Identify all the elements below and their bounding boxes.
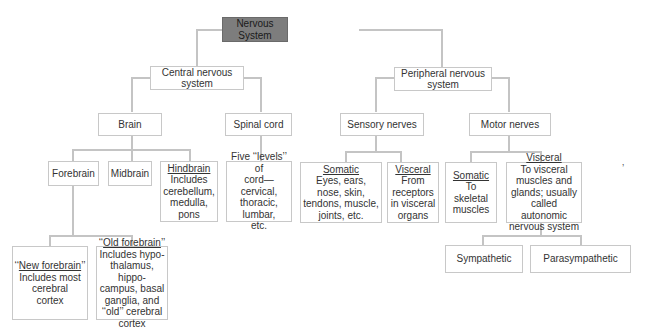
node-text: To visceral <box>520 164 567 176</box>
node-title: ‘‘Old forebrain’’ <box>99 237 165 249</box>
node-text: tendons, muscle, <box>303 198 379 210</box>
node-text: thoracic, <box>240 197 278 209</box>
node-text: Includes most <box>19 272 81 284</box>
node-nervous-system: Nervous System <box>222 17 288 42</box>
node-text: To <box>466 181 477 193</box>
node-label: Motor nerves <box>481 119 539 131</box>
node-text: organs <box>398 210 429 222</box>
node-text: Eyes, ears, <box>316 175 366 187</box>
node-title: ‘‘New forebrain’’ <box>15 260 86 272</box>
node-sensory-visceral: Visceral From receptors in visceral orga… <box>387 162 439 223</box>
node-label: Spinal cord <box>233 119 283 131</box>
node-label: system <box>427 79 459 91</box>
node-spinal-cord: Spinal cord <box>225 113 292 136</box>
node-text: cord—cervical, <box>227 174 291 197</box>
node-forebrain: Forebrain <box>48 161 99 186</box>
node-midbrain: Midbrain <box>108 161 152 186</box>
node-text: called autonomic <box>507 198 581 221</box>
node-label: Midbrain <box>111 168 149 180</box>
node-label: Forebrain <box>52 168 95 180</box>
node-text: thalamus, hippo- <box>97 260 167 283</box>
node-old-forebrain: ‘‘Old forebrain’’ Includes hypo- thalamu… <box>96 246 168 320</box>
node-sympathetic: Sympathetic <box>445 245 523 273</box>
node-label: Nervous System <box>223 18 287 41</box>
node-text: Includes hypo- <box>99 249 164 261</box>
node-text: medulla, <box>170 197 208 209</box>
node-label: system <box>181 78 213 90</box>
node-text: in visceral <box>391 198 435 210</box>
node-text: cortex <box>118 318 145 329</box>
node-new-forebrain: ‘‘New forebrain’’ Includes most cerebral… <box>12 246 88 320</box>
node-motor-nerves: Motor nerves <box>469 113 551 136</box>
node-title: Visceral <box>526 152 561 164</box>
node-label: Peripheral nervous <box>401 68 485 80</box>
node-label: Parasympathetic <box>543 253 617 265</box>
node-text: etc. <box>251 220 267 232</box>
node-title: Visceral <box>395 164 430 176</box>
node-text: joints, etc. <box>318 210 363 222</box>
node-text: lumbar, <box>243 209 276 221</box>
node-text: nose, skin, <box>317 187 365 199</box>
node-hindbrain: Hindbrain Includes cerebellum, medulla, … <box>160 161 218 222</box>
node-text: ganglia, and <box>105 295 160 307</box>
node-text: cortex <box>36 295 63 307</box>
node-title: Hindbrain <box>168 163 211 175</box>
node-text: campus, basal <box>100 283 164 295</box>
node-text: cerebral <box>32 283 68 295</box>
node-motor-somatic: Somatic To skeletal muscles <box>445 162 497 223</box>
node-label: Sympathetic <box>456 253 511 265</box>
node-text: Five ‘‘levels’’ of <box>227 151 291 174</box>
node-text: cerebellum, <box>163 186 215 198</box>
node-motor-visceral: Visceral To visceral muscles and glands;… <box>506 162 582 223</box>
node-parasympathetic: Parasympathetic <box>530 245 631 273</box>
node-central-nervous-system: Central nervous system <box>150 66 244 90</box>
node-text: nervous system <box>509 221 579 233</box>
node-sensory-somatic: Somatic Eyes, ears, nose, skin, tendons,… <box>300 162 382 223</box>
node-text: pons <box>178 209 200 221</box>
node-text: receptors <box>392 187 434 199</box>
node-brain: Brain <box>98 113 162 136</box>
node-text: muscles and <box>516 175 572 187</box>
node-text: From <box>401 175 424 187</box>
node-title: Somatic <box>323 164 359 176</box>
node-text: glands; usually <box>511 187 577 199</box>
node-title: Somatic <box>453 170 489 182</box>
node-label: Brain <box>118 119 141 131</box>
node-spinal-levels: Five ‘‘levels’’ of cord—cervical, thorac… <box>226 161 292 222</box>
node-text: ‘‘old’’ cerebral <box>102 306 162 318</box>
node-peripheral-nervous-system: Peripheral nervous system <box>394 67 492 91</box>
node-text: muscles <box>453 204 490 216</box>
node-label: Central nervous <box>162 67 233 79</box>
node-text: skeletal <box>454 193 488 205</box>
node-label: Sensory nerves <box>347 119 416 131</box>
node-sensory-nerves: Sensory nerves <box>340 113 424 136</box>
node-text: Includes <box>170 174 207 186</box>
stray-mark: ’ <box>622 163 624 174</box>
